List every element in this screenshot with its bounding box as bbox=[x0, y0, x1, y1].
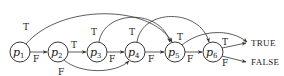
edge-label-p2-t: T bbox=[71, 40, 77, 50]
node-p3: p3 bbox=[87, 42, 107, 62]
edge-label-p5-f: F bbox=[187, 54, 193, 64]
node-p6: p6 bbox=[203, 42, 223, 62]
edge-label-p1-f: F bbox=[33, 54, 39, 64]
edge-label-p3-f: F bbox=[109, 54, 115, 64]
terminal-false: FALSE bbox=[251, 57, 280, 67]
node-p1: p1 bbox=[10, 42, 30, 62]
edge-p4-p6-true bbox=[137, 17, 209, 43]
edge-label-p6-t: T bbox=[222, 37, 228, 47]
edge-label-p4-t: T bbox=[129, 27, 135, 37]
node-p5: p5 bbox=[165, 42, 185, 62]
edge-label-p3-t: T bbox=[91, 27, 97, 37]
bdd-diagram: T F T F T F T F T F T F p1 p2 p3 p4 p5 p… bbox=[0, 0, 284, 76]
edge-label-p4-f: F bbox=[148, 54, 154, 64]
edge-label-p1-t: T bbox=[23, 22, 29, 32]
edge-label-p5-t: T bbox=[177, 32, 183, 42]
edge-p1-p5-true bbox=[26, 14, 172, 44]
node-p4: p4 bbox=[125, 42, 145, 62]
edge-label-p2-f: F bbox=[58, 67, 64, 76]
terminal-true: TRUE bbox=[251, 38, 276, 48]
node-p2: p2 bbox=[48, 42, 68, 62]
edge-label-p6-f: F bbox=[222, 58, 228, 68]
